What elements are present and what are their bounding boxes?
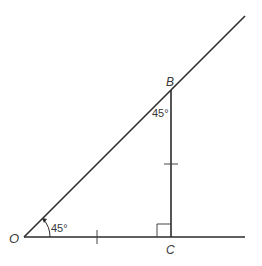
arrowhead-icon bbox=[42, 218, 47, 223]
triangle-diagram: O B C 45° 45° bbox=[0, 0, 262, 266]
diagonal-ray-OB bbox=[24, 16, 245, 237]
angle-label-O: 45° bbox=[51, 222, 68, 234]
point-label-B: B bbox=[166, 75, 174, 89]
angle-label-B: 45° bbox=[152, 107, 169, 119]
point-label-C: C bbox=[166, 243, 175, 257]
right-angle-mark bbox=[157, 224, 171, 237]
point-label-O: O bbox=[9, 231, 19, 246]
